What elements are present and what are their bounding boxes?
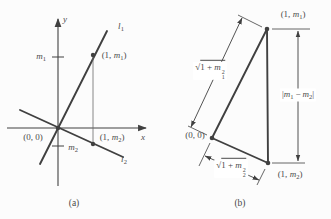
origin-label-b: (0, 0)	[185, 130, 205, 140]
x-axis-label: x	[141, 132, 145, 142]
m2-tick-label: m2	[68, 142, 78, 155]
origin-label-a: (0, 0)	[23, 132, 43, 142]
sqrt-1-m2-label: √1 + m22	[214, 160, 248, 178]
line-l2-label: l2	[121, 154, 127, 167]
abs-m1-minus-m2-label: |m1−m2|	[280, 89, 316, 102]
point-1-m2-b	[266, 161, 271, 166]
point-origin-a	[56, 126, 61, 131]
point-1-m1-a	[91, 53, 95, 57]
extension-tick-c2	[257, 169, 265, 185]
triangle-side-top-hyp	[212, 29, 267, 138]
caption-b: (b)	[234, 198, 245, 208]
point-origin-b	[210, 136, 215, 141]
p2-label-a: (1, m2)	[100, 132, 125, 145]
extension-tick-b2	[199, 143, 210, 166]
m1-tick-label: m1	[36, 51, 46, 64]
diagram-canvas	[0, 0, 331, 219]
point-1-m2-a	[91, 142, 95, 146]
p1-label-a: (1, m1)	[102, 50, 127, 63]
line-l1-label: l1	[118, 21, 124, 34]
extension-tick-a1	[238, 15, 262, 27]
caption-a: (a)	[69, 198, 80, 208]
point-1-m1-b	[265, 27, 270, 32]
p2-label-b: (1, m2)	[278, 169, 303, 182]
triangle-side-vertical	[267, 29, 268, 163]
p1-label-b: (1, m1)	[281, 9, 306, 22]
diagram-stage: y x l1 l2 m1 m2 (0, 0) (1, m1) (1, m2) (…	[0, 0, 331, 219]
y-axis-label: y	[63, 14, 67, 24]
sqrt-1-m1-label: √1 + m21	[193, 62, 227, 80]
